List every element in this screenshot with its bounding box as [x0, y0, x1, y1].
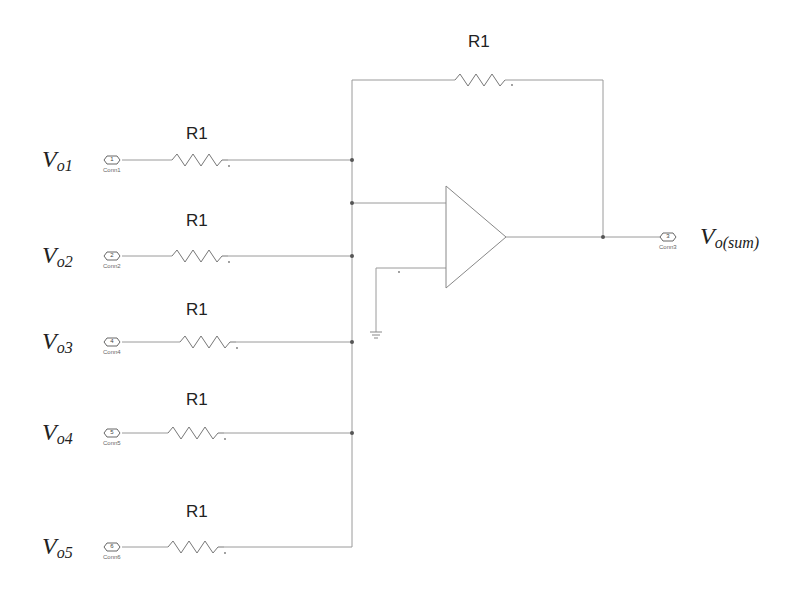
opamp-symbol	[446, 186, 506, 288]
resistor-1-symbol	[172, 154, 228, 166]
resistor-label-3: R1	[186, 300, 208, 320]
input-label-vo1: Vo1	[42, 147, 73, 174]
input-label-vo2: Vo2	[42, 243, 73, 270]
port-number: 6	[105, 543, 119, 549]
resistor-label-4: R1	[186, 390, 208, 410]
input-label-vo4: Vo4	[42, 420, 73, 447]
input-label-vo5: Vo5	[42, 534, 73, 561]
resistor-4-symbol	[168, 427, 224, 439]
ground-icon	[370, 332, 382, 338]
port-number: 1	[105, 156, 119, 162]
output-label-vosum: Vo(sum)	[700, 224, 759, 251]
schematic-canvas	[0, 0, 810, 594]
resistor-label-1: R1	[186, 124, 208, 144]
port-name: Conn5	[103, 440, 121, 446]
resistor-3-symbol	[180, 336, 236, 348]
resistor-label-5: R1	[186, 502, 208, 522]
port-number: 2	[105, 252, 119, 258]
port-number: 5	[105, 429, 119, 435]
port-name: Conn2	[103, 263, 121, 269]
port-name: Conn1	[103, 167, 121, 173]
port-name: Conn3	[659, 244, 677, 250]
junction-dots	[350, 158, 605, 435]
port-number: 3	[661, 233, 675, 239]
resistor-label-feedback: R1	[468, 32, 490, 52]
resistor-2-symbol	[172, 250, 228, 262]
port-number: 4	[105, 338, 119, 344]
port-name: Conn6	[103, 554, 121, 560]
resistor-label-2: R1	[186, 211, 208, 231]
input-label-vo3: Vo3	[42, 329, 73, 356]
port-name: Conn4	[103, 349, 121, 355]
resistor-feedback-symbol	[455, 74, 505, 86]
resistor-5-symbol	[168, 541, 224, 553]
